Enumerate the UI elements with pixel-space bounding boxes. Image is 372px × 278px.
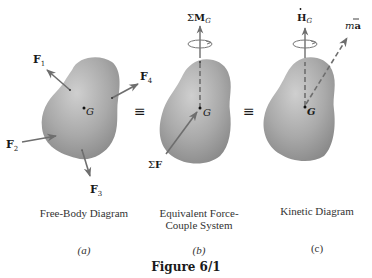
center-of-mass-label-c: G [307, 106, 316, 117]
figure-title: Figure 6/1 [151, 260, 220, 274]
center-of-mass-label-b: G [203, 107, 211, 118]
force-label-f2: F2 [6, 138, 18, 153]
resultant-force-label-sum-f: ΣF [148, 159, 162, 170]
figure-6-1-diagram: F1 F4 F2 F3 G ≡ ΣMG ΣF G ≡ [0, 0, 372, 278]
rigid-body-shape-c [264, 57, 335, 161]
caption-equivalent-force-couple-line1: Equivalent Force- [159, 207, 238, 219]
angular-momentum-label-hg-dot: HG [297, 12, 312, 25]
caption-kinetic-diagram: Kinetic Diagram [280, 205, 354, 217]
panel-a-free-body-diagram: F1 F4 F2 F3 G [6, 53, 153, 198]
panel-tag-a: (a) [78, 244, 91, 257]
rigid-body-shape-a [42, 57, 120, 159]
panel-tag-b: (b) [193, 244, 206, 257]
caption-equivalent-force-couple-line2: Couple System [166, 219, 233, 231]
center-of-mass-label-a: G [86, 106, 94, 117]
inertia-force-label-m-abar: ma [345, 20, 361, 31]
force-label-f1: F1 [33, 53, 45, 68]
panel-c-kinetic-diagram: HG ma G [264, 8, 362, 161]
moment-label-sum-mg: ΣMG [187, 12, 211, 25]
panel-b-force-couple-system: ΣMG ΣF G [148, 12, 231, 170]
time-derivative-dot [300, 8, 302, 10]
caption-free-body-diagram: Free-Body Diagram [40, 207, 129, 219]
force-label-f4: F4 [140, 70, 153, 85]
equivalence-symbol-1: ≡ [134, 103, 146, 119]
equivalence-symbol-2: ≡ [243, 103, 255, 119]
panel-tag-c: (c) [311, 242, 324, 255]
center-of-mass-dot-b [199, 107, 202, 110]
force-label-f3: F3 [90, 183, 102, 198]
